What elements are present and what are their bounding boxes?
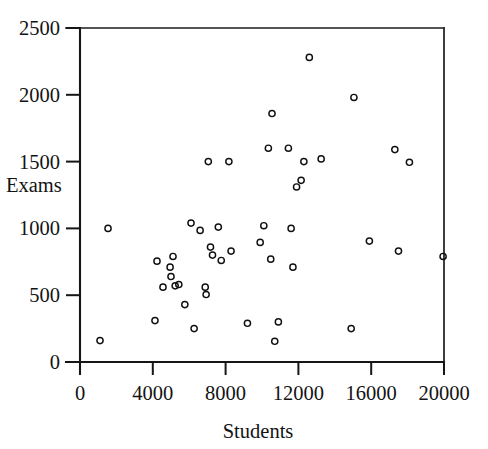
- data-point: [160, 284, 166, 290]
- data-point: [290, 264, 296, 270]
- y-axis-title: Exams: [6, 174, 62, 196]
- data-point: [152, 317, 158, 323]
- y-tick-label-2500: 2500: [19, 17, 60, 39]
- data-point: [182, 301, 188, 307]
- data-point: [226, 159, 232, 165]
- axis-ticks: [66, 28, 444, 375]
- data-point: [301, 159, 307, 165]
- data-point: [265, 145, 271, 151]
- x-tick-label-16000: 16000: [346, 382, 397, 404]
- data-point: [272, 338, 278, 344]
- plot-canvas: 0500100015002000250004000800012000160002…: [0, 0, 488, 449]
- y-tick-label-1000: 1000: [19, 217, 60, 239]
- data-point: [154, 258, 160, 264]
- data-point: [348, 326, 354, 332]
- data-point: [269, 110, 275, 116]
- data-point: [228, 248, 234, 254]
- x-tick-label-4000: 4000: [132, 382, 173, 404]
- y-tick-label-0: 0: [50, 351, 60, 373]
- data-point: [268, 256, 274, 262]
- data-point: [257, 239, 263, 245]
- data-points: [97, 54, 446, 344]
- data-point: [306, 54, 312, 60]
- data-point: [261, 223, 267, 229]
- x-axis-title: Students: [223, 420, 294, 442]
- data-point: [406, 159, 412, 165]
- data-point: [395, 248, 401, 254]
- data-point: [392, 146, 398, 152]
- data-point: [440, 253, 446, 259]
- data-point: [209, 252, 215, 258]
- data-point: [188, 220, 194, 226]
- data-point: [298, 177, 304, 183]
- data-point: [167, 264, 173, 270]
- x-tick-label-0: 0: [75, 382, 85, 404]
- x-tick-label-20000: 20000: [418, 382, 469, 404]
- data-point: [215, 224, 221, 230]
- data-point: [205, 159, 211, 165]
- data-point: [170, 253, 176, 259]
- data-point: [218, 257, 224, 263]
- data-point: [202, 284, 208, 290]
- y-tick-label-500: 500: [29, 284, 60, 306]
- data-point: [191, 326, 197, 332]
- data-point: [207, 244, 213, 250]
- data-point: [105, 225, 111, 231]
- data-point: [318, 156, 324, 162]
- x-tick-label-8000: 8000: [205, 382, 246, 404]
- data-point: [288, 225, 294, 231]
- data-point: [197, 227, 203, 233]
- y-tick-label-1500: 1500: [19, 151, 60, 173]
- data-point: [203, 291, 209, 297]
- data-point: [168, 273, 174, 279]
- data-point: [366, 238, 372, 244]
- y-tick-label-2000: 2000: [19, 84, 60, 106]
- data-point: [293, 184, 299, 190]
- data-point: [97, 338, 103, 344]
- data-point: [244, 320, 250, 326]
- plot-frame: [66, 28, 444, 374]
- x-tick-label-12000: 12000: [273, 382, 324, 404]
- scatter-plot-figure: 0500100015002000250004000800012000160002…: [0, 0, 488, 449]
- data-point: [275, 319, 281, 325]
- data-point: [351, 94, 357, 100]
- axis-tick-labels: 0500100015002000250004000800012000160002…: [19, 17, 470, 404]
- data-point: [285, 145, 291, 151]
